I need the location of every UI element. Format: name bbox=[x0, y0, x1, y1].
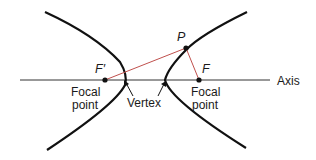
point-f bbox=[196, 77, 201, 82]
label-focal-point-left-line2: point bbox=[72, 98, 99, 112]
hyperbola-diagram: F′ P F Focal point Vertex Focal point Ax… bbox=[0, 0, 316, 160]
label-focal-point-right-line2: point bbox=[192, 98, 219, 112]
focal-line-p-to-f bbox=[186, 48, 199, 80]
label-focal-point-right-line1: Focal bbox=[191, 85, 220, 99]
vertex-arrow-right bbox=[158, 81, 166, 96]
label-f: F bbox=[202, 62, 211, 76]
hyperbola-left-branch bbox=[45, 12, 126, 150]
label-p: P bbox=[177, 30, 186, 44]
label-axis: Axis bbox=[277, 74, 300, 88]
vertex-arrow-left bbox=[124, 80, 133, 96]
point-f-prime bbox=[102, 77, 107, 82]
label-vertex: Vertex bbox=[127, 96, 161, 110]
point-p bbox=[183, 45, 188, 50]
label-f-prime: F′ bbox=[95, 62, 106, 76]
label-focal-point-left-line1: Focal bbox=[71, 85, 100, 99]
